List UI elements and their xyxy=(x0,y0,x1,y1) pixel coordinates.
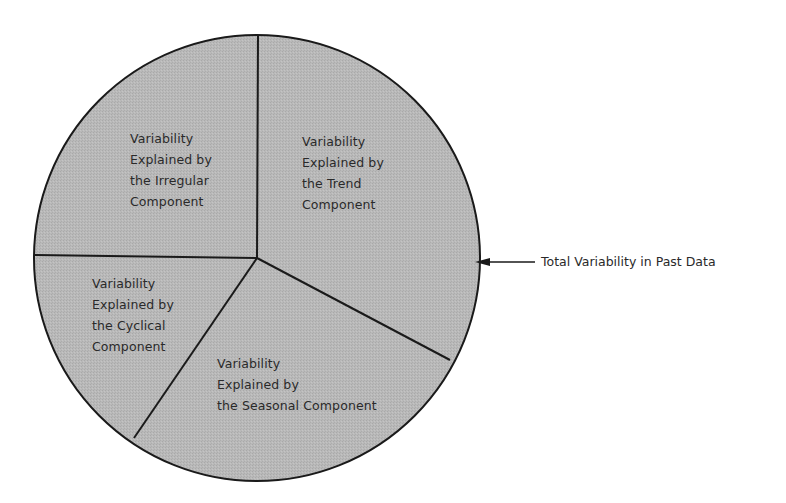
label-line: Variability xyxy=(302,131,384,152)
label-line: Variability xyxy=(217,353,377,374)
label-line: Variability xyxy=(92,273,174,294)
label-line: Explained by xyxy=(217,374,377,395)
label-line: Variability xyxy=(130,128,212,149)
label-line: Component xyxy=(130,191,212,212)
label-line: the Irregular xyxy=(130,170,212,191)
slice-label-irregular: Variability Explained by the Irregular C… xyxy=(130,128,212,212)
slice-label-cyclical: Variability Explained by the Cyclical Co… xyxy=(92,273,174,357)
label-line: the Trend xyxy=(302,173,384,194)
label-line: Component xyxy=(92,336,174,357)
label-line: Explained by xyxy=(92,294,174,315)
label-line: Explained by xyxy=(130,149,212,170)
total-variability-label: Total Variability in Past Data xyxy=(541,253,716,271)
divider-irregular-trend xyxy=(257,35,258,258)
label-line: the Cyclical xyxy=(92,315,174,336)
label-line: Explained by xyxy=(302,152,384,173)
label-line: the Seasonal Component xyxy=(217,395,377,416)
slice-label-seasonal: Variability Explained by the Seasonal Co… xyxy=(217,353,377,416)
pie-diagram xyxy=(0,0,786,503)
slice-label-trend: Variability Explained by the Trend Compo… xyxy=(302,131,384,215)
label-line: Component xyxy=(302,194,384,215)
